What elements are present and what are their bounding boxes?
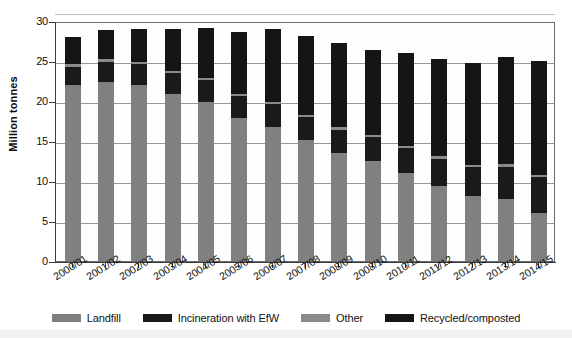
y-tick-label: 0	[4, 256, 48, 267]
y-tick-label: 10	[4, 176, 48, 187]
bar-segment-incineration-with-efw	[465, 167, 481, 196]
bar-segment-landfill	[398, 173, 414, 261]
bar-segment-landfill	[198, 102, 214, 261]
bar-segment-recycled-composted	[131, 29, 147, 62]
bar-segment-incineration-with-efw	[531, 177, 547, 213]
bar-segment-landfill	[131, 85, 147, 261]
bar-segment-recycled-composted	[331, 43, 347, 127]
bar-segment-recycled-composted	[531, 61, 547, 175]
chart-legend: LandfillIncineration with EfWOtherRecycl…	[0, 312, 572, 324]
bar-segment-other	[265, 102, 281, 104]
bar-2007-08[interactable]	[298, 21, 314, 261]
y-tick-label: 30	[4, 16, 48, 27]
bar-segment-incineration-with-efw	[365, 137, 381, 161]
bar-segment-recycled-composted	[365, 50, 381, 135]
legend-swatch-icon	[301, 314, 330, 322]
bar-segment-incineration-with-efw	[231, 96, 247, 118]
bar-segment-other	[531, 175, 547, 177]
bar-segment-landfill	[431, 186, 447, 261]
bar-segment-other	[431, 156, 447, 158]
bar-segment-recycled-composted	[231, 32, 247, 94]
bar-segment-incineration-with-efw	[198, 80, 214, 102]
bar-segment-incineration-with-efw	[165, 73, 181, 94]
y-axis-labels: 051015202530	[0, 0, 48, 338]
y-tick-label: 20	[4, 96, 48, 107]
bar-segment-incineration-with-efw	[265, 104, 281, 126]
bar-2002-03[interactable]	[131, 21, 147, 261]
bar-segment-landfill	[165, 94, 181, 261]
bar-2000-01[interactable]	[65, 21, 81, 261]
bar-segment-recycled-composted	[298, 36, 314, 114]
bar-segment-incineration-with-efw	[131, 64, 147, 85]
legend-label: Incineration with EfW	[178, 312, 279, 324]
bar-segment-incineration-with-efw	[431, 159, 447, 186]
legend-item-other[interactable]: Other	[301, 312, 363, 324]
legend-label: Recycled/composted	[420, 312, 520, 324]
legend-swatch-icon	[143, 314, 172, 322]
bar-2001-02[interactable]	[98, 21, 114, 261]
bar-2013-14[interactable]	[498, 21, 514, 261]
y-tick-label: 25	[4, 56, 48, 67]
bar-segment-other	[398, 146, 414, 148]
bar-2011-12[interactable]	[431, 21, 447, 261]
top-rule	[55, 14, 555, 15]
y-tick-mark	[49, 142, 55, 143]
bar-2005-06[interactable]	[231, 21, 247, 261]
bar-segment-landfill	[65, 85, 81, 261]
bar-segment-other	[165, 71, 181, 73]
y-tick-mark	[49, 262, 55, 263]
y-tick-mark	[49, 22, 55, 23]
bar-segment-other	[365, 135, 381, 137]
bar-segment-other	[465, 165, 481, 167]
y-tick-mark	[49, 102, 55, 103]
y-tick-mark	[49, 182, 55, 183]
legend-label: Other	[336, 312, 363, 324]
y-tick-mark	[49, 62, 55, 63]
bottom-margin	[0, 330, 572, 338]
y-axis-line	[55, 22, 56, 263]
bar-segment-recycled-composted	[198, 28, 214, 78]
bar-segment-landfill	[331, 153, 347, 261]
bar-segment-other	[131, 62, 147, 64]
bar-2012-13[interactable]	[465, 21, 481, 261]
bar-segment-incineration-with-efw	[65, 67, 81, 85]
bar-segment-recycled-composted	[265, 29, 281, 102]
bar-2008-10[interactable]	[365, 21, 381, 261]
bar-2010-11[interactable]	[398, 21, 414, 261]
bar-segment-recycled-composted	[498, 57, 514, 164]
y-tick-label: 15	[4, 136, 48, 147]
bar-segment-landfill	[365, 161, 381, 261]
bar-segment-other	[198, 78, 214, 80]
y-tick-mark	[49, 222, 55, 223]
bar-segment-recycled-composted	[65, 37, 81, 64]
legend-item-landfill[interactable]: Landfill	[52, 312, 121, 324]
bar-segment-landfill	[465, 196, 481, 261]
bar-segment-landfill	[498, 199, 514, 261]
bar-segment-other	[298, 115, 314, 117]
legend-item-incineration-with-efw[interactable]: Incineration with EfW	[143, 312, 279, 324]
bar-segment-landfill	[98, 82, 114, 261]
bar-segment-other	[331, 127, 347, 129]
stacked-bar-chart: Million tonnes 051015202530 2000/012001/…	[0, 0, 572, 338]
bar-segment-other	[231, 94, 247, 96]
legend-swatch-icon	[385, 314, 414, 322]
bar-2006-07[interactable]	[265, 21, 281, 261]
legend-swatch-icon	[52, 314, 81, 322]
bar-segment-incineration-with-efw	[331, 130, 347, 153]
bar-segment-other	[98, 59, 114, 61]
bar-2008-09[interactable]	[331, 21, 347, 261]
bar-segment-recycled-composted	[98, 30, 114, 60]
plot-area	[55, 22, 555, 262]
bar-segment-incineration-with-efw	[498, 167, 514, 200]
bar-segment-recycled-composted	[398, 53, 414, 146]
bar-2003-04[interactable]	[165, 21, 181, 261]
bar-segment-recycled-composted	[165, 29, 181, 71]
bar-segment-other	[498, 164, 514, 166]
bar-segment-other	[65, 64, 81, 66]
bar-segment-landfill	[231, 118, 247, 261]
bar-2004-05[interactable]	[198, 21, 214, 261]
legend-item-recycled-composted[interactable]: Recycled/composted	[385, 312, 520, 324]
bar-segment-incineration-with-efw	[298, 117, 314, 140]
y-tick-label: 5	[4, 216, 48, 227]
bar-2014-15[interactable]	[531, 21, 547, 261]
